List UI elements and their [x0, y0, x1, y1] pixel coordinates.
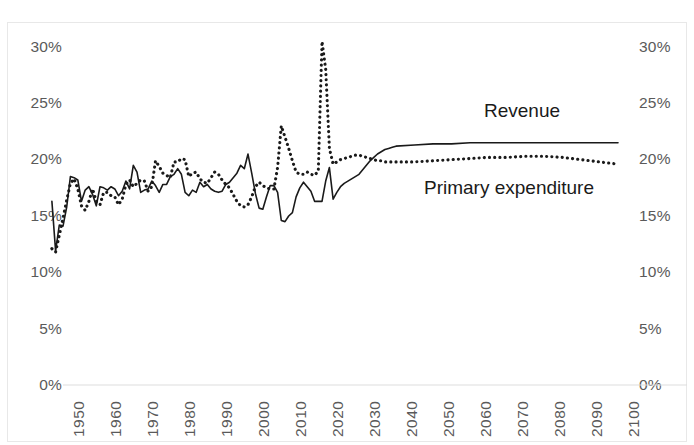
y-tick-left-10: 10%	[14, 263, 62, 281]
x-tick-1980: 1980	[181, 401, 199, 437]
y-tick-right-10: 10%	[639, 263, 687, 281]
x-tick-2000: 2000	[255, 401, 273, 437]
y-tick-left-30: 30%	[14, 38, 62, 56]
y-tick-left-5: 5%	[14, 320, 62, 338]
y-tick-right-20: 20%	[639, 150, 687, 168]
y-tick-left-0: 0%	[14, 376, 62, 394]
x-tick-1970: 1970	[144, 401, 162, 437]
x-tick-2040: 2040	[403, 401, 421, 437]
y-tick-right-25: 25%	[639, 94, 687, 112]
y-tick-right-30: 30%	[639, 38, 687, 56]
x-tick-2010: 2010	[292, 401, 310, 437]
y-tick-left-25: 25%	[14, 94, 62, 112]
x-tick-2080: 2080	[551, 401, 569, 437]
y-tick-right-0: 0%	[639, 376, 687, 394]
x-tick-2070: 2070	[514, 401, 532, 437]
x-tick-2060: 2060	[477, 401, 495, 437]
y-tick-right-15: 15%	[639, 207, 687, 225]
y-tick-left-20: 20%	[14, 150, 62, 168]
chart-plot-frame	[7, 22, 687, 442]
x-tick-2090: 2090	[588, 401, 606, 437]
x-tick-1950: 1950	[70, 401, 88, 437]
x-tick-1960: 1960	[107, 401, 125, 437]
x-tick-2020: 2020	[329, 401, 347, 437]
y-tick-right-5: 5%	[639, 320, 687, 338]
series-annotation-primary-expenditure: Primary expenditure	[424, 177, 594, 199]
x-tick-2030: 2030	[366, 401, 384, 437]
series-annotation-revenue: Revenue	[484, 100, 560, 122]
x-tick-1990: 1990	[218, 401, 236, 437]
x-tick-2100: 2100	[625, 401, 643, 437]
x-tick-2050: 2050	[440, 401, 458, 437]
chart-container: 30% 25% 20% 15% 10% 5% 0% 30% 25% 20% 15…	[0, 0, 694, 445]
y-tick-left-15: 15%	[14, 207, 62, 225]
